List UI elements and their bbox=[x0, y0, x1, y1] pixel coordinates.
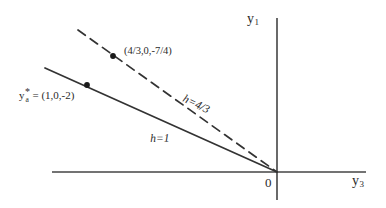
ya-symbol-base: y bbox=[19, 89, 25, 101]
ya-symbol: ya* bbox=[19, 90, 25, 101]
h-equals-1-line bbox=[45, 68, 277, 172]
data-point-4-3 bbox=[110, 53, 116, 59]
y1-axis-label: y1 bbox=[247, 12, 259, 27]
ya-symbol-superscript: * bbox=[25, 87, 30, 97]
y3-axis-label-subscript: 3 bbox=[359, 179, 364, 189]
point-label-ya-star: ya*= (1,0,-2) bbox=[19, 90, 74, 101]
origin-label: 0 bbox=[265, 176, 272, 189]
ya-symbol-value: = (1,0,-2) bbox=[25, 89, 75, 101]
h-equals-1-label: h=1 bbox=[150, 133, 169, 145]
y1-axis-label-subscript: 1 bbox=[254, 17, 259, 27]
data-point-ya-star bbox=[84, 82, 90, 88]
h-equals-4-3-line bbox=[78, 30, 277, 172]
isoquant-diagram: y1 y3 0 (4/3,0,-7/4) ya*= (1,0,-2) h=4/3… bbox=[0, 0, 386, 208]
point-label-4-3: (4/3,0,-7/4) bbox=[124, 46, 172, 57]
y1-axis-label-base: y bbox=[247, 11, 254, 26]
y3-axis-label-base: y bbox=[352, 173, 359, 188]
ya-symbol-subscript: a bbox=[26, 96, 29, 104]
y3-axis-label: y3 bbox=[352, 174, 364, 189]
